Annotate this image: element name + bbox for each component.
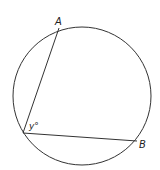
circle-diagram: A B y° xyxy=(0,0,160,170)
point-b-label: B xyxy=(139,139,146,150)
chord-to-b xyxy=(23,133,137,141)
chord-to-a xyxy=(23,28,59,133)
angle-y-label: y° xyxy=(28,121,39,131)
circle xyxy=(13,27,151,165)
point-a-label: A xyxy=(54,16,62,27)
